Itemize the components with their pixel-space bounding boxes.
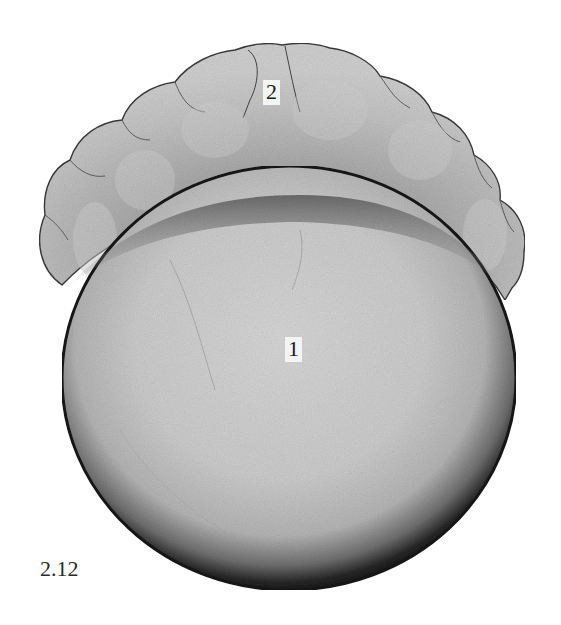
embryo-micrograph: 2 1 2.12 — [0, 0, 561, 625]
yolk-cell — [62, 166, 516, 590]
label-yolk: 1 — [285, 337, 302, 362]
embryo-illustration — [0, 0, 561, 625]
figure-number: 2.12 — [40, 556, 79, 582]
label-1-text: 1 — [288, 336, 299, 361]
label-2-text: 2 — [266, 79, 277, 104]
label-blastoderm: 2 — [263, 80, 280, 105]
